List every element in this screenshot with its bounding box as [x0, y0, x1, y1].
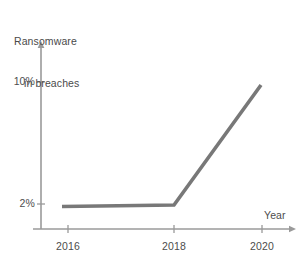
chart-title-line-1: Ransomware: [14, 34, 79, 48]
data-line-ransomware: [62, 85, 261, 207]
x-tick-label-2018: 2018: [158, 240, 190, 253]
y-tick-label-10: 10%: [11, 75, 35, 88]
x-tick-label-2020: 2020: [246, 240, 278, 253]
chart-title: Ransomware in breaches: [14, 6, 79, 118]
x-axis-arrow-icon: [289, 226, 296, 232]
x-tick-label-2016: 2016: [52, 240, 84, 253]
line-chart: Ransomware in breaches 10% 2% 2016 2018 …: [0, 0, 302, 264]
y-tick-label-2: 2%: [11, 197, 35, 210]
x-axis-label: Year: [264, 209, 294, 222]
